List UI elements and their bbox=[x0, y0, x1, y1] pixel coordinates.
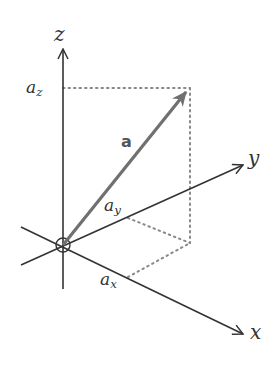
x-axis-label: x bbox=[250, 322, 261, 342]
z-axis-label: z bbox=[54, 24, 65, 44]
y-axis-label: y bbox=[248, 148, 259, 168]
ax-label: ax bbox=[100, 271, 117, 291]
vector-a-label: a bbox=[121, 134, 132, 150]
axes bbox=[21, 49, 243, 334]
az-label: az bbox=[26, 79, 42, 99]
ax-dotted-line bbox=[128, 243, 190, 277]
projection-lines bbox=[63, 88, 190, 277]
y-axis bbox=[21, 165, 243, 265]
ay-dotted-line bbox=[128, 218, 190, 243]
vector-diagram: z y x az ay ax a bbox=[0, 0, 274, 366]
x-axis bbox=[21, 227, 243, 334]
vector-a-arrow bbox=[63, 92, 186, 245]
ay-label: ay bbox=[104, 197, 121, 217]
diagram-svg bbox=[0, 0, 274, 366]
